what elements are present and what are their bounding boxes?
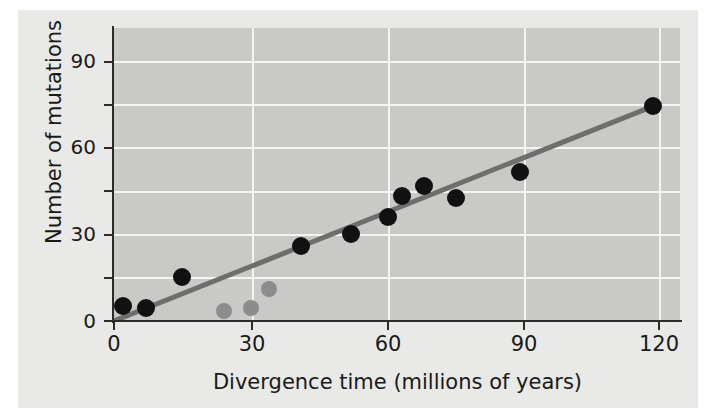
data-point [447, 189, 465, 207]
y-axis-tick-label: 0 [50, 311, 96, 331]
y-axis-tick [104, 104, 113, 106]
x-axis-tick-label: 90 [494, 333, 554, 355]
data-point [292, 237, 310, 255]
x-axis-tick-label: 120 [629, 333, 689, 355]
trend-line [114, 28, 680, 321]
y-axis-tick [104, 277, 113, 279]
data-point [415, 177, 433, 195]
plot-area [114, 28, 680, 321]
data-point [243, 300, 259, 316]
scatter-plot-figure: 0 30 60 90 0 30 60 90 120 Number of muta… [0, 0, 716, 419]
x-axis-tick [523, 321, 525, 330]
y-axis-tick [104, 234, 113, 236]
x-axis-tick [387, 321, 389, 330]
data-point [379, 208, 397, 226]
data-point [644, 97, 662, 115]
y-axis-title: Number of mutations [42, 0, 66, 282]
data-point [137, 299, 155, 317]
x-axis-tick [658, 321, 660, 330]
data-point [114, 297, 132, 315]
data-point [342, 225, 360, 243]
y-axis-tick [104, 147, 113, 149]
data-point [511, 163, 529, 181]
x-axis-tick-label: 60 [358, 333, 418, 355]
y-axis-tick [104, 190, 113, 192]
data-point [261, 281, 277, 297]
data-point [393, 187, 411, 205]
x-axis-tick [251, 321, 253, 330]
y-axis-tick [104, 61, 113, 63]
x-axis-title: Divergence time (millions of years) [110, 370, 685, 394]
x-axis-tick-label: 0 [84, 333, 144, 355]
data-point [173, 268, 191, 286]
data-point [216, 303, 232, 319]
x-axis-tick-label: 30 [222, 333, 282, 355]
x-axis-tick [113, 321, 115, 330]
x-axis-line [112, 320, 682, 322]
